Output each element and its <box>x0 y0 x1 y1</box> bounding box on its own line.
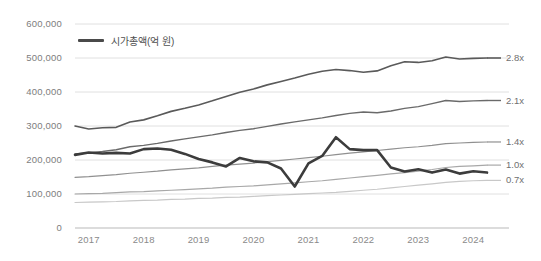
gridlines-group <box>75 24 509 228</box>
series-group <box>75 57 487 203</box>
chart-container: 600,000500,000400,000300,000200,000100,0… <box>0 0 541 261</box>
right-label-21x: 2.1x <box>506 95 541 106</box>
x-axis-tick-label: 2024 <box>450 234 496 245</box>
x-axis-tick-label: 2022 <box>340 234 386 245</box>
y-axis-tick-label: 600,000 <box>4 18 62 29</box>
series-line-2.8x <box>75 57 487 129</box>
legend-swatch-icon <box>78 39 104 43</box>
right-label-07x: 0.7x <box>506 174 541 185</box>
y-axis-tick-label: 400,000 <box>4 86 62 97</box>
chart-legend: 시가총액(억 원) <box>78 33 174 48</box>
x-axis-tick-label: 2023 <box>395 234 441 245</box>
y-axis-tick-label: 300,000 <box>4 120 62 131</box>
series-line- <box>75 137 487 186</box>
y-axis-tick-label: 200,000 <box>4 154 62 165</box>
right-label-28x: 2.8x <box>506 52 541 63</box>
right-label-14x: 1.4x <box>506 136 541 147</box>
x-axis-tick-label: 2021 <box>285 234 331 245</box>
x-axis-tick-label: 2020 <box>231 234 277 245</box>
y-axis-tick-label: 500,000 <box>4 52 62 63</box>
legend-label: 시가총액(억 원) <box>111 33 174 48</box>
series-end-ticks <box>487 58 501 180</box>
y-axis-tick-label: 0 <box>4 222 62 233</box>
x-axis-tick-label: 2019 <box>176 234 222 245</box>
y-axis-tick-label: 100,000 <box>4 188 62 199</box>
x-axis-tick-label: 2017 <box>66 234 112 245</box>
x-axis-tick-label: 2018 <box>121 234 167 245</box>
right-label-10x: 1.0x <box>506 159 541 170</box>
